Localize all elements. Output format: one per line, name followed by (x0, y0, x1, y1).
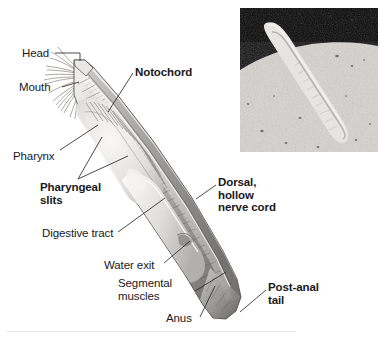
lancelet-anatomy-figure: Head Mouth Notochord Pharynx Pharyngeal … (0, 0, 381, 338)
label-dorsal-nerve-cord: Dorsal, hollow nerve cord (218, 176, 276, 214)
label-notochord: Notochord (135, 66, 192, 79)
photo-inset (240, 8, 378, 152)
label-head: Head (22, 47, 49, 60)
label-post-anal-tail: Post-anal tail (268, 281, 319, 306)
leader-pharyngeal-slits-a (78, 137, 102, 179)
label-mouth: Mouth (19, 81, 50, 94)
leader-post-anal-tail (240, 290, 266, 312)
leader-dorsal-nerve-cord (196, 185, 216, 199)
label-segmental-muscles: Segmental muscles (118, 277, 172, 302)
label-pharyngeal-slits: Pharyngeal slits (40, 181, 101, 206)
label-digestive-tract: Digestive tract (42, 227, 113, 240)
lancelet-illustration (0, 0, 381, 338)
label-water-exit: Water exit (104, 259, 154, 272)
bottom-divider (6, 331, 296, 332)
label-pharynx: Pharynx (13, 150, 55, 163)
label-anus: Anus (166, 312, 192, 325)
